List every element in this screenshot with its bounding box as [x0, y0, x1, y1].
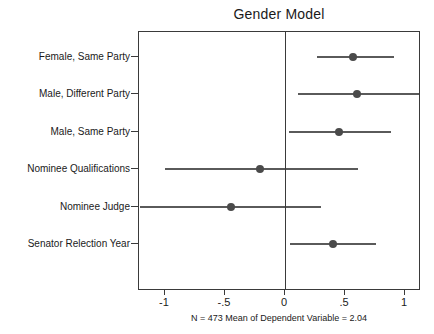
chart-footnote: N = 473 Mean of Dependent Variable = 2.0… — [138, 313, 420, 323]
x-axis-tick-label: -.5 — [218, 296, 231, 308]
plot-area — [138, 31, 420, 290]
estimate-row — [139, 88, 419, 100]
y-axis-label: Nominee Judge — [60, 201, 130, 212]
x-axis-tick-label: -1 — [159, 296, 169, 308]
y-axis-tick — [131, 243, 138, 244]
point-estimate-marker — [353, 90, 361, 98]
point-estimate-marker — [335, 128, 343, 136]
x-axis-tick — [404, 290, 405, 295]
x-axis-tick — [164, 290, 165, 295]
chart-title: Gender Model — [138, 6, 420, 22]
y-axis-label: Male, Different Party — [39, 88, 130, 99]
point-estimate-marker — [227, 203, 235, 211]
x-axis-tick — [344, 290, 345, 295]
point-estimate-marker — [329, 240, 337, 248]
y-axis-tick — [131, 168, 138, 169]
y-axis-label: Male, Same Party — [51, 126, 130, 137]
y-axis-label: Female, Same Party — [39, 51, 130, 62]
x-axis-tick-label: 0 — [281, 296, 287, 308]
chart-figure: Gender Model Female, Same PartyMale, Dif… — [0, 0, 434, 334]
y-axis-tick — [131, 131, 138, 132]
y-axis-tick — [131, 93, 138, 94]
y-axis-tick — [131, 206, 138, 207]
y-axis-tick — [131, 56, 138, 57]
estimate-row — [139, 163, 419, 175]
x-axis-tick-label: .5 — [339, 296, 348, 308]
point-estimate-marker — [349, 53, 357, 61]
y-axis-label: Senator Relection Year — [28, 238, 130, 249]
estimate-row — [139, 238, 419, 250]
estimate-row — [139, 201, 419, 213]
x-axis-tick-label: 1 — [401, 296, 407, 308]
point-estimate-marker — [256, 165, 264, 173]
y-axis-label: Nominee Qualifications — [27, 163, 130, 174]
estimate-row — [139, 51, 419, 63]
x-axis-tick — [284, 290, 285, 295]
estimate-row — [139, 126, 419, 138]
x-axis-tick — [224, 290, 225, 295]
plot-inner — [139, 32, 419, 289]
zero-reference-line — [285, 32, 286, 289]
